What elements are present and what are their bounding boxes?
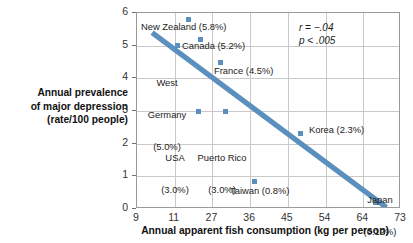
y-tick-mark <box>132 208 136 209</box>
y-tick-label: 5 <box>108 38 128 50</box>
y-tick-label: 2 <box>108 136 128 148</box>
data-point-marker <box>175 43 180 48</box>
point-label-france: France (4.5%) <box>214 66 273 77</box>
data-point-marker <box>223 109 228 114</box>
point-label-canada: Canada (5.2%) <box>182 41 245 52</box>
scatter-chart: Annual prevalence of major depression (r… <box>0 0 413 243</box>
y-axis-title-line-1: Annual prevalence <box>2 86 128 100</box>
point-label-west-germany-line-1: West <box>141 78 193 89</box>
point-label-puerto-rico: Puerto Rico (3.0%) <box>194 132 250 217</box>
y-tick-label: 4 <box>108 70 128 82</box>
y-tick-label: 3 <box>108 103 128 115</box>
point-label-puerto-rico-line-1: Puerto Rico <box>194 153 250 164</box>
point-label-japan-line-2: (0.12%) <box>358 227 402 238</box>
point-label-japan-line-1: Japan <box>358 195 402 206</box>
point-label-taiwan: Taiwan (0.8%) <box>230 186 289 197</box>
x-tick-label: 9 <box>123 211 149 223</box>
point-label-usa: USA (3.0%) <box>158 132 192 217</box>
y-tick-label: 6 <box>108 5 128 17</box>
point-label-west-germany-line-2: Germany <box>141 110 193 121</box>
y-axis-title-line-3: (rate/100 people) <box>2 113 128 127</box>
data-point-marker <box>218 60 223 65</box>
y-tick-label: 1 <box>108 168 128 180</box>
point-label-usa-line-1: USA <box>158 153 192 164</box>
stat-p-value: p < .005 <box>299 34 335 47</box>
data-point-marker <box>252 179 257 184</box>
point-label-new-zealand: New Zealand (5.8%) <box>141 22 226 33</box>
x-tick-label: 54 <box>312 211 338 223</box>
x-tick-label: 45 <box>274 211 300 223</box>
data-point-marker <box>298 131 303 136</box>
point-label-korea: Korea (2.3%) <box>309 125 364 136</box>
point-label-usa-line-2: (3.0%) <box>158 185 192 196</box>
data-point-marker <box>196 109 201 114</box>
stat-r-value: r = −.04 <box>299 21 333 34</box>
point-label-japan: Japan (0.12%) <box>358 174 402 243</box>
